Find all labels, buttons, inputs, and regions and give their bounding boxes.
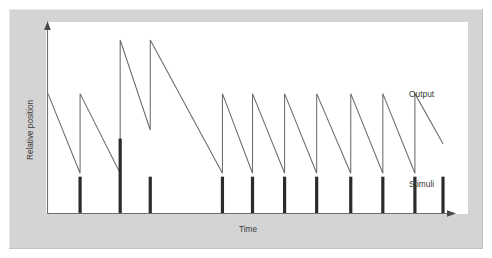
x-axis-arrow-icon — [447, 210, 456, 217]
output-series-label: Output — [409, 89, 435, 99]
stimuli-impulses — [80, 139, 443, 213]
output-trace — [48, 40, 443, 173]
x-axis-label: Time — [239, 225, 257, 234]
stimuli-series-label: Stimuli — [409, 179, 434, 189]
chart-svg: Relative position Time Output Stimuli — [0, 0, 492, 258]
y-axis-label: Relative position — [26, 99, 35, 160]
figure-container: Relative position Time Output Stimuli — [0, 0, 492, 258]
y-axis — [44, 21, 51, 214]
y-axis-arrow-icon — [44, 21, 51, 30]
